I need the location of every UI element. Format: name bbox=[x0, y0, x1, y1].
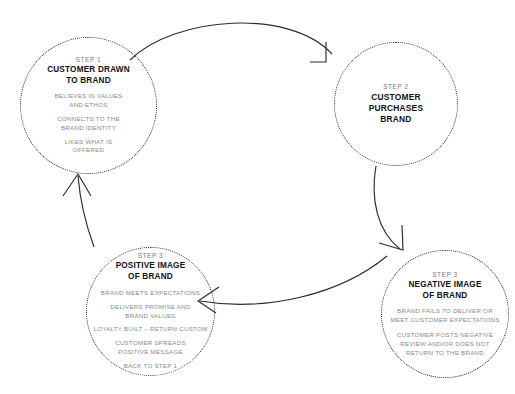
node-step1-bullets: BELIEVES IN VALUES AND ETHOS CONNECTS TO… bbox=[26, 92, 150, 155]
node-step3-positive-step-label: STEP 3 bbox=[138, 252, 164, 259]
node-step3-positive-bullet: BRAND MEETS EXPECTATIONS bbox=[101, 289, 200, 298]
node-step3-negative[interactable]: STEP 3 NEGATIVE IMAGE OF BRAND BRAND FAI… bbox=[381, 250, 509, 378]
node-step3-negative-bullet: BRAND FAILS TO DELIVER OR MEET CUSTOMER … bbox=[390, 307, 499, 325]
node-step3-positive[interactable]: STEP 3 POSITIVE IMAGE OF BRAND BRAND MEE… bbox=[86, 247, 215, 376]
node-step3-positive-bullet: CUSTOMER SPREADS POSITIVE MESSAGE bbox=[115, 339, 186, 357]
node-step2-title: CUSTOMER PURCHASES BRAND bbox=[369, 92, 423, 125]
node-step3-positive-bullets: BRAND MEETS EXPECTATIONS DELIVERS PROMIS… bbox=[92, 289, 209, 371]
connector-step1-to-step2 bbox=[130, 23, 332, 60]
node-step1-bullet: LIKES WHAT IS OFFERED bbox=[65, 138, 113, 156]
diagram-canvas: STEP 1 CUSTOMER DRAWN TO BRAND BELIEVES … bbox=[0, 0, 515, 394]
node-step1-title: CUSTOMER DRAWN TO BRAND bbox=[47, 65, 130, 87]
arrowhead-step2-to-step3-negative bbox=[379, 225, 403, 250]
arrowhead-step3-positive-to-step1 bbox=[63, 174, 91, 196]
node-step3-positive-bullet: BACK TO STEP 1 bbox=[124, 362, 177, 371]
node-step3-negative-content: STEP 3 NEGATIVE IMAGE OF BRAND BRAND FAI… bbox=[387, 271, 503, 358]
connector-step2-to-step3-negative bbox=[374, 166, 400, 249]
node-step3-positive-bullet: DELIVERS PROMISE AND BRAND VALUES bbox=[110, 303, 190, 321]
node-step3-negative-step-label: STEP 3 bbox=[432, 271, 458, 278]
node-step3-negative-title: NEGATIVE IMAGE OF BRAND bbox=[408, 280, 481, 302]
node-step3-positive-bullet: LOYALTY BUILT – RETURN CUSTOM bbox=[94, 325, 208, 334]
arrowhead-step1-to-step2 bbox=[310, 42, 326, 62]
connector-step3-negative-to-step3-positive bbox=[200, 256, 387, 304]
node-step1[interactable]: STEP 1 CUSTOMER DRAWN TO BRAND BELIEVES … bbox=[20, 37, 157, 174]
node-step2[interactable]: STEP 2 CUSTOMER PURCHASES BRAND bbox=[334, 42, 458, 166]
node-step3-positive-title: POSITIVE IMAGE OF BRAND bbox=[116, 261, 186, 283]
node-step2-step-label: STEP 2 bbox=[383, 83, 409, 90]
node-step1-content: STEP 1 CUSTOMER DRAWN TO BRAND BELIEVES … bbox=[26, 56, 150, 155]
node-step1-bullet: CONNECTS TO THE BRAND IDENTITY bbox=[57, 115, 120, 133]
node-step1-bullet: BELIEVES IN VALUES AND ETHOS bbox=[54, 92, 122, 110]
node-step3-negative-bullets: BRAND FAILS TO DELIVER OR MEET CUSTOMER … bbox=[387, 307, 503, 357]
node-step2-content: STEP 2 CUSTOMER PURCHASES BRAND bbox=[340, 83, 452, 125]
node-step1-step-label: STEP 1 bbox=[76, 56, 102, 63]
node-step3-negative-bullet: CUSTOMER POSTS NEGATIVE REVIEW AND/OR DO… bbox=[397, 331, 493, 357]
node-step3-positive-content: STEP 3 POSITIVE IMAGE OF BRAND BRAND MEE… bbox=[92, 252, 209, 370]
